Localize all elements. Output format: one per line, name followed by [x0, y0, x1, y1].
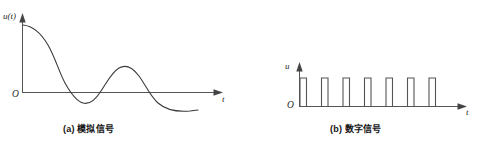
digital-pulse-3: [343, 78, 350, 107]
analog-waveform-curve: [23, 25, 198, 111]
digital-pulse-4: [365, 78, 372, 107]
digital-pulse-5: [386, 78, 393, 107]
digital-pulse-1: [300, 78, 307, 107]
panel-analog-signal: u(t) t O (a) 模拟信号: [0, 0, 239, 151]
analog-y-axis-arrowhead: [19, 13, 25, 23]
digital-pulse-6: [408, 78, 415, 107]
analog-y-axis-label: u(t): [3, 12, 16, 21]
digital-pulse-7: [429, 78, 436, 107]
analog-x-axis-label: t: [222, 95, 225, 104]
digital-origin-label: O: [287, 101, 294, 111]
digital-y-axis-arrowhead: [296, 62, 302, 72]
digital-pulse-2: [322, 78, 329, 107]
analog-signal-plot: [0, 0, 239, 151]
digital-x-axis-label: t: [466, 108, 469, 117]
digital-y-axis-label: u: [285, 62, 290, 71]
caption-digital-signal: (b) 数字信号: [330, 122, 382, 135]
analog-origin-label: O: [12, 90, 19, 100]
figure-root: u(t) t O (a) 模拟信号 u t O (b) 数字信号: [0, 0, 478, 151]
caption-analog-signal: (a) 模拟信号: [63, 122, 114, 135]
